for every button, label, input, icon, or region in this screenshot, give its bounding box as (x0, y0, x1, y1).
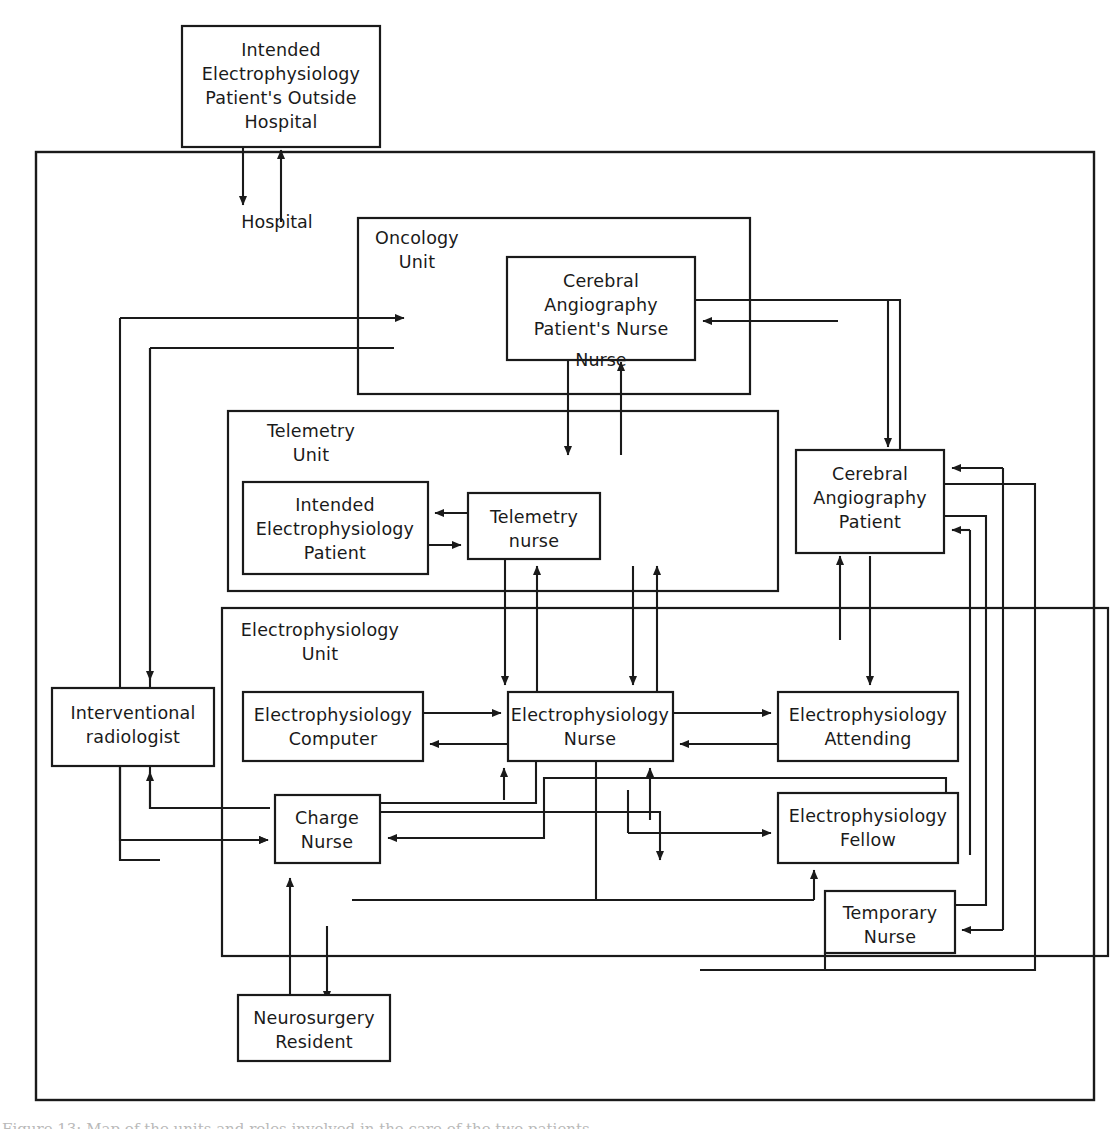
svg-text:Patient's Outside: Patient's Outside (205, 88, 356, 108)
node-electrophysiology-fellow[interactable]: Electrophysiology Fellow (778, 793, 958, 863)
node-electrophysiology-nurse[interactable]: Electrophysiology Nurse (508, 692, 673, 761)
figure-canvas: Oncology Unit Telemetry Unit Electrophys… (0, 0, 1114, 1129)
edge-epnurse-down-center (352, 761, 596, 900)
svg-text:Unit: Unit (302, 644, 338, 664)
svg-text:Angiography: Angiography (544, 295, 658, 315)
svg-text:nurse: nurse (509, 531, 559, 551)
node-intended-electrophysiology-patient[interactable]: Intended Electrophysiology Patient (243, 482, 428, 574)
svg-text:Electrophysiology: Electrophysiology (789, 806, 947, 826)
edge-left-bus-1 (120, 318, 160, 860)
edge-interventional-to-chargenurse (120, 766, 268, 840)
svg-text:Electrophysiology: Electrophysiology (256, 519, 414, 539)
edge-chargenurse-to-interventional (150, 772, 270, 808)
node-neurosurgery-resident[interactable]: Neurosurgery Resident (238, 995, 390, 1061)
group-label-oncology: Oncology Unit (375, 228, 459, 272)
node-overflow-text-nurse: Nurse (575, 350, 626, 370)
svg-text:Patient: Patient (839, 512, 901, 532)
edge-chargenurse-to-epfellow (380, 812, 660, 860)
svg-text:Patient: Patient (304, 543, 366, 563)
svg-text:Resident: Resident (275, 1032, 353, 1052)
node-interventional-radiologist[interactable]: Interventional radiologist (52, 688, 214, 766)
node-cerebral-angiography-patients-nurse[interactable]: Cerebral Angiography Patient's Nurse (507, 257, 695, 360)
svg-text:Nurse: Nurse (301, 832, 353, 852)
svg-text:Cerebral: Cerebral (563, 271, 639, 291)
svg-text:Telemetry: Telemetry (266, 421, 355, 441)
node-electrophysiology-attending[interactable]: Electrophysiology Attending (778, 692, 958, 761)
svg-text:Unit: Unit (399, 252, 435, 272)
node-charge-nurse[interactable]: Charge Nurse (275, 795, 380, 863)
unit-role-map-diagram: Oncology Unit Telemetry Unit Electrophys… (0, 0, 1114, 1129)
svg-text:Electrophysiology: Electrophysiology (254, 705, 412, 725)
svg-text:Cerebral: Cerebral (832, 464, 908, 484)
node-outside-hospital[interactable]: Intended Electrophysiology Patient's Out… (182, 26, 380, 147)
edge-canurse-out-right-top (695, 300, 900, 450)
svg-text:Electrophysiology: Electrophysiology (511, 705, 669, 725)
svg-text:Interventional: Interventional (70, 703, 195, 723)
node-electrophysiology-computer[interactable]: Electrophysiology Computer (243, 692, 423, 761)
svg-text:Unit: Unit (293, 445, 329, 465)
svg-text:Electrophysiology: Electrophysiology (789, 705, 947, 725)
svg-text:Hospital: Hospital (244, 112, 317, 132)
svg-text:Angiography: Angiography (813, 488, 927, 508)
svg-text:Patient's Nurse: Patient's Nurse (534, 319, 669, 339)
svg-text:Intended: Intended (295, 495, 375, 515)
svg-text:Nurse: Nurse (864, 927, 916, 947)
svg-text:Attending: Attending (824, 729, 911, 749)
svg-text:Neurosurgery: Neurosurgery (253, 1008, 374, 1028)
svg-text:Oncology: Oncology (375, 228, 459, 248)
svg-text:Nurse: Nurse (564, 729, 616, 749)
svg-text:Telemetry: Telemetry (489, 507, 578, 527)
node-temporary-nurse[interactable]: Temporary Nurse (825, 891, 955, 953)
svg-text:radiologist: radiologist (86, 727, 180, 747)
group-label-telemetry: Telemetry Unit (266, 421, 355, 465)
svg-text:Charge: Charge (295, 808, 359, 828)
svg-text:Intended: Intended (241, 40, 321, 60)
group-label-electrophysiology: Electrophysiology Unit (241, 620, 399, 664)
figure-caption: Figure 13: Map of the units and roles in… (2, 1118, 1112, 1129)
group-electrophysiology-unit (222, 608, 1108, 956)
svg-text:Electrophysiology: Electrophysiology (202, 64, 360, 84)
svg-text:Fellow: Fellow (840, 830, 896, 850)
node-cerebral-angiography-patient[interactable]: Cerebral Angiography Patient (796, 450, 944, 553)
svg-text:Computer: Computer (289, 729, 378, 749)
node-telemetry-nurse[interactable]: Telemetry nurse (468, 493, 600, 559)
hospital-boundary-label: Hospital (241, 212, 312, 232)
svg-text:Electrophysiology: Electrophysiology (241, 620, 399, 640)
edge-epnurse-to-chargenurse (380, 761, 536, 803)
svg-text:Temporary: Temporary (842, 903, 938, 923)
